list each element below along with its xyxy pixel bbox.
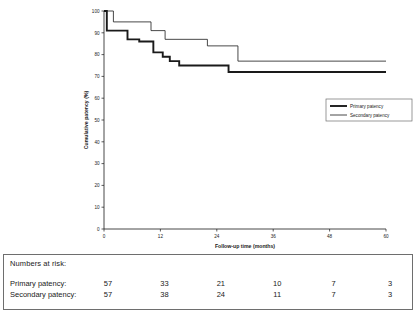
table-row: Secondary patency: 5738241173 xyxy=(4,290,412,301)
risk-value: 38 xyxy=(155,290,173,299)
risk-row-label: Primary patency: xyxy=(10,279,66,288)
x-tick-label: 60 xyxy=(383,234,389,239)
numbers-at-risk-table: Numbers at risk: Primary patency: 573321… xyxy=(3,254,413,310)
risk-value: 7 xyxy=(325,290,343,299)
y-tick-label: 50 xyxy=(94,118,100,123)
risk-value: 3 xyxy=(381,279,399,288)
legend-label: Secondary patency xyxy=(350,113,390,118)
risk-value: 33 xyxy=(155,279,173,288)
legend-label: Primary patency xyxy=(350,104,384,109)
y-tick-label: 70 xyxy=(94,74,100,79)
table-row: Primary patency: 5733211073 xyxy=(4,279,412,290)
y-tick-label: 10 xyxy=(94,205,100,210)
y-tick-label: 30 xyxy=(94,161,100,166)
kaplan-meier-chart: 0102030405060708090100 01224364860 Cumul… xyxy=(0,0,419,255)
risk-value: 11 xyxy=(268,290,286,299)
series-group xyxy=(104,11,386,72)
risk-value: 3 xyxy=(381,290,399,299)
x-tick-label: 36 xyxy=(271,234,277,239)
risk-value: 21 xyxy=(212,279,230,288)
risk-value: 57 xyxy=(99,290,117,299)
y-tick-label: 0 xyxy=(97,227,100,232)
y-tick-label: 80 xyxy=(94,52,100,57)
y-tick-label: 20 xyxy=(94,183,100,188)
x-axis-ticks: 01224364860 xyxy=(103,229,389,239)
x-axis-title: Follow-up time (months) xyxy=(215,243,275,249)
risk-row-label: Secondary patency: xyxy=(10,290,76,299)
risk-value: 7 xyxy=(325,279,343,288)
x-tick-label: 0 xyxy=(103,234,106,239)
x-tick-label: 48 xyxy=(327,234,333,239)
chart-legend: Primary patencySecondary patency xyxy=(326,99,412,121)
y-tick-label: 40 xyxy=(94,140,100,145)
series-line-secondary xyxy=(104,11,386,61)
y-tick-label: 100 xyxy=(92,9,100,14)
y-tick-label: 60 xyxy=(94,96,100,101)
risk-value: 24 xyxy=(212,290,230,299)
series-line-primary xyxy=(104,11,386,72)
risk-value: 10 xyxy=(268,279,286,288)
y-tick-label: 90 xyxy=(94,31,100,36)
x-tick-label: 12 xyxy=(158,234,164,239)
plot-svg: 0102030405060708090100 01224364860 Cumul… xyxy=(0,0,419,255)
risk-value: 57 xyxy=(99,279,117,288)
x-tick-label: 24 xyxy=(214,234,220,239)
y-axis-ticks: 0102030405060708090100 xyxy=(92,9,104,232)
y-axis-title: Cumulative patency (%) xyxy=(83,90,89,149)
risk-table-title: Numbers at risk: xyxy=(10,259,66,268)
